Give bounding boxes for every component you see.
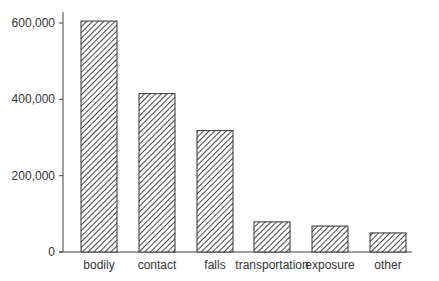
y-tick-label: 200,000: [12, 169, 56, 183]
x-tick-label: other: [374, 258, 401, 272]
bars: [81, 21, 406, 252]
x-axis-labels: bodilycontactfallstransportationexposure…: [83, 258, 401, 272]
bar-contact: [139, 94, 175, 252]
bar-transportation: [254, 222, 290, 252]
y-tick-label: 600,000: [12, 16, 56, 30]
x-tick-label: contact: [138, 258, 177, 272]
bar-other: [370, 233, 406, 252]
y-tick-label: 400,000: [12, 92, 56, 106]
bar-chart: 0200,000400,000600,000 bodilycontactfall…: [0, 0, 439, 281]
x-tick-label: transportation: [235, 258, 308, 272]
x-tick-label: exposure: [305, 258, 355, 272]
y-tick-label: 0: [48, 245, 55, 259]
bar-falls: [197, 131, 233, 252]
bar-exposure: [312, 226, 348, 252]
x-tick-label: bodily: [83, 258, 114, 272]
bar-bodily: [81, 21, 117, 252]
x-tick-label: falls: [204, 258, 225, 272]
